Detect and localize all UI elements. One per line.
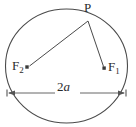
label-major-axis: 2a: [57, 80, 70, 93]
label-point-p: P: [84, 1, 91, 14]
label-major-axis-variable: a: [64, 79, 71, 94]
label-point-p-text: P: [84, 0, 91, 15]
segment-p-to-f2: [30, 21, 89, 66]
label-focus-2-subscript: 2: [19, 65, 24, 75]
ellipse-foci-figure: P F2 F1 2a: [0, 0, 136, 127]
focus-2-point-marker: [25, 65, 28, 68]
label-focus-2: F2: [12, 59, 24, 75]
label-focus-1: F1: [108, 60, 120, 76]
label-focus-1-subscript: 1: [115, 66, 120, 76]
focus-1-point-marker: [102, 66, 105, 69]
segment-p-to-f1: [88, 21, 104, 67]
